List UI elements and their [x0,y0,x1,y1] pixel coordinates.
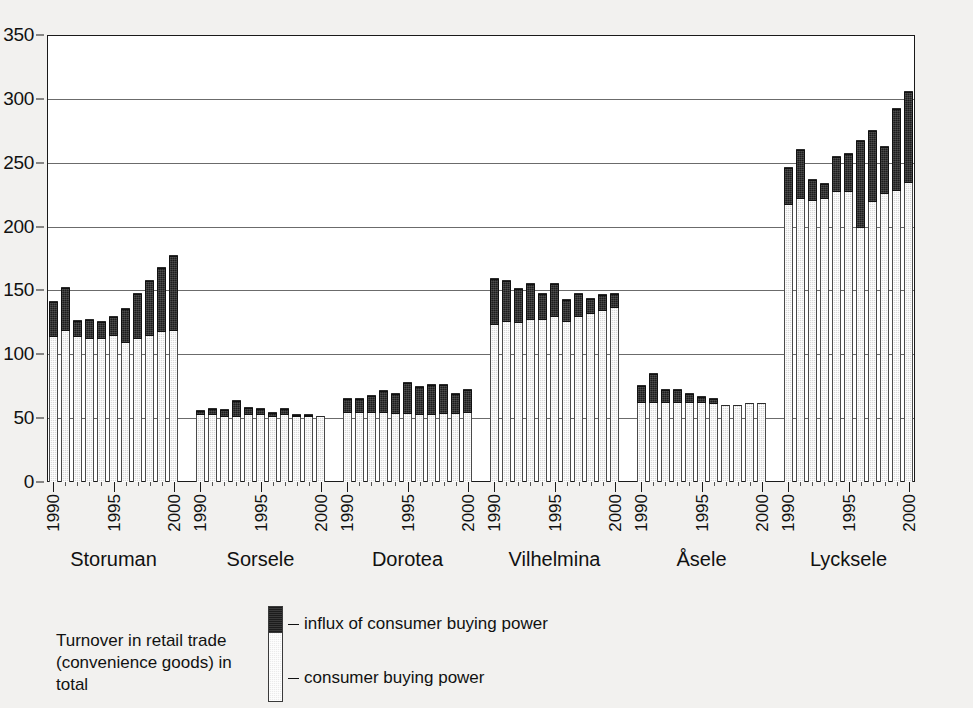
bar-segment-influx [562,300,571,322]
x-axis-tick [849,482,850,492]
bar [169,255,178,482]
x-axis-year-label: 2000 [459,494,479,532]
x-axis-tick [395,482,396,486]
y-axis: 050100150200250300350 [0,35,44,482]
bar [280,408,289,482]
x-axis-tick [297,482,298,486]
bar [109,316,118,482]
legend: Turnover in retail trade (convenience go… [56,606,616,702]
bar [574,293,583,482]
x-axis-year-label: 2000 [606,494,626,532]
x-axis-year-label: 1990 [485,494,505,532]
bar [439,384,448,482]
bar-segment-influx [439,385,448,414]
x-axis-tick [518,482,519,486]
bar-segment-influx [586,299,595,314]
bar [745,403,754,482]
y-axis-tick-label: 50 [13,407,34,429]
x-axis-tick [702,482,703,492]
x-axis-tick [261,482,262,492]
bar [502,280,511,482]
bar-segment-influx [157,268,166,332]
legend-swatch [268,606,283,702]
bar [292,414,301,482]
legend-entry-buying-power: consumer buying power [288,668,484,688]
bar [661,389,670,482]
x-axis-tick [420,482,421,486]
y-axis-tick-label: 0 [24,471,34,493]
bar [391,393,400,482]
x-axis [47,482,915,494]
bar-group-lycksele [782,35,915,482]
bar-segment-influx [208,409,217,415]
bar [808,179,817,482]
bar-group-vilhelmina [488,35,621,482]
x-axis-year-label: 1990 [632,494,652,532]
bar [463,389,472,482]
bar [856,140,865,482]
bar-segment-influx [304,415,313,417]
bar-segment-influx [892,109,901,191]
bar-segment-influx [808,180,817,200]
bar-segment-influx [820,184,829,199]
x-axis-tick [77,482,78,486]
bar [367,395,376,482]
x-axis-tick [542,482,543,486]
bar-segment-influx [538,294,547,320]
x-axis-tick [750,482,751,486]
bar-segment-influx [232,401,241,416]
bar [538,293,547,482]
bar [49,301,58,482]
bar-segment-influx [868,131,877,203]
y-axis-tick-mark [36,354,44,355]
bar-segment-influx [574,294,583,317]
x-axis-tick [371,482,372,486]
bar-segment-influx [268,413,277,417]
bar [451,393,460,482]
bar-segment-influx [49,302,58,338]
bar-segment-influx [73,321,82,338]
bar [526,283,535,482]
bar-segment-influx [403,383,412,414]
legend-entry-buying-power-label: consumer buying power [304,668,484,687]
x-axis-tick [615,482,616,492]
bar-segment-influx [649,374,658,402]
bar-segment-influx [145,281,154,336]
x-axis-tick [897,482,898,486]
y-axis-tick-mark [36,290,44,291]
legend-caption: Turnover in retail trade (convenience go… [56,630,256,696]
bar-segment-influx [673,390,682,403]
bar [403,382,412,482]
x-axis-year-label: 1995 [105,494,125,532]
bar [268,412,277,482]
bar [61,287,70,482]
bar-segment-influx [463,390,472,413]
x-axis-year-label: 2000 [312,494,332,532]
bar [637,385,646,482]
group-label-storuman: Storuman [70,548,157,571]
bar [796,149,805,482]
x-axis-year-label: 1990 [779,494,799,532]
y-axis-tick-mark [36,226,44,227]
bar [697,396,706,482]
x-axis-tick [224,482,225,486]
x-axis-tick [800,482,801,486]
bar-group-dorotea [341,35,474,482]
bar-group-åsele [635,35,768,482]
bar-segment-influx [85,320,94,339]
bar [244,407,253,482]
bar [892,108,901,482]
bar-segment-influx [832,157,841,191]
bar [304,414,313,482]
y-axis-tick-mark [36,162,44,163]
bar [844,153,853,483]
x-axis-tick [200,482,201,492]
bar-segment-influx [427,385,436,416]
group-label-dorotea: Dorotea [372,548,443,571]
x-axis-tick [347,482,348,492]
bar-segment-influx [391,394,400,414]
bar [73,320,82,482]
bar-segment-influx [514,289,523,323]
bar [121,308,130,482]
y-axis-tick-label: 250 [3,152,34,174]
